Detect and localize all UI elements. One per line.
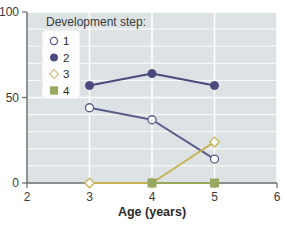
legend-item-label: 3 <box>63 68 69 80</box>
y-tick-label: 0 <box>12 176 19 190</box>
x-tick-label: 4 <box>149 190 156 204</box>
y-tick-label: 100 <box>0 5 19 19</box>
data-point-open-circle <box>211 155 219 163</box>
y-tick-label: 50 <box>6 91 20 105</box>
data-point-filled-square <box>148 179 156 187</box>
data-point-filled-square <box>211 179 219 187</box>
data-point-filled-circle <box>148 70 156 78</box>
legend-item-label: 1 <box>63 35 69 47</box>
legend-title: Development step: <box>46 15 146 29</box>
y-axis-ticks: 050100 <box>0 5 27 190</box>
x-tick-label: 5 <box>211 190 218 204</box>
x-tick-label: 3 <box>86 190 93 204</box>
legend-item-label: 4 <box>63 85 70 97</box>
chart-container: 23456 050100 Age (years) Development ste… <box>0 0 287 225</box>
data-point-open-circle <box>50 37 57 44</box>
data-point-filled-square <box>50 87 57 94</box>
legend-item-label: 2 <box>63 52 69 64</box>
data-point-open-circle <box>148 116 156 124</box>
x-tick-label: 6 <box>274 190 281 204</box>
data-point-open-circle <box>86 104 94 112</box>
x-tick-label: 2 <box>24 190 31 204</box>
data-point-filled-circle <box>211 82 219 90</box>
data-point-filled-circle <box>86 82 94 90</box>
legend-box <box>42 30 80 99</box>
x-axis-title: Age (years) <box>118 205 186 219</box>
data-point-filled-circle <box>50 54 57 61</box>
line-chart: 23456 050100 Age (years) Development ste… <box>0 0 287 225</box>
